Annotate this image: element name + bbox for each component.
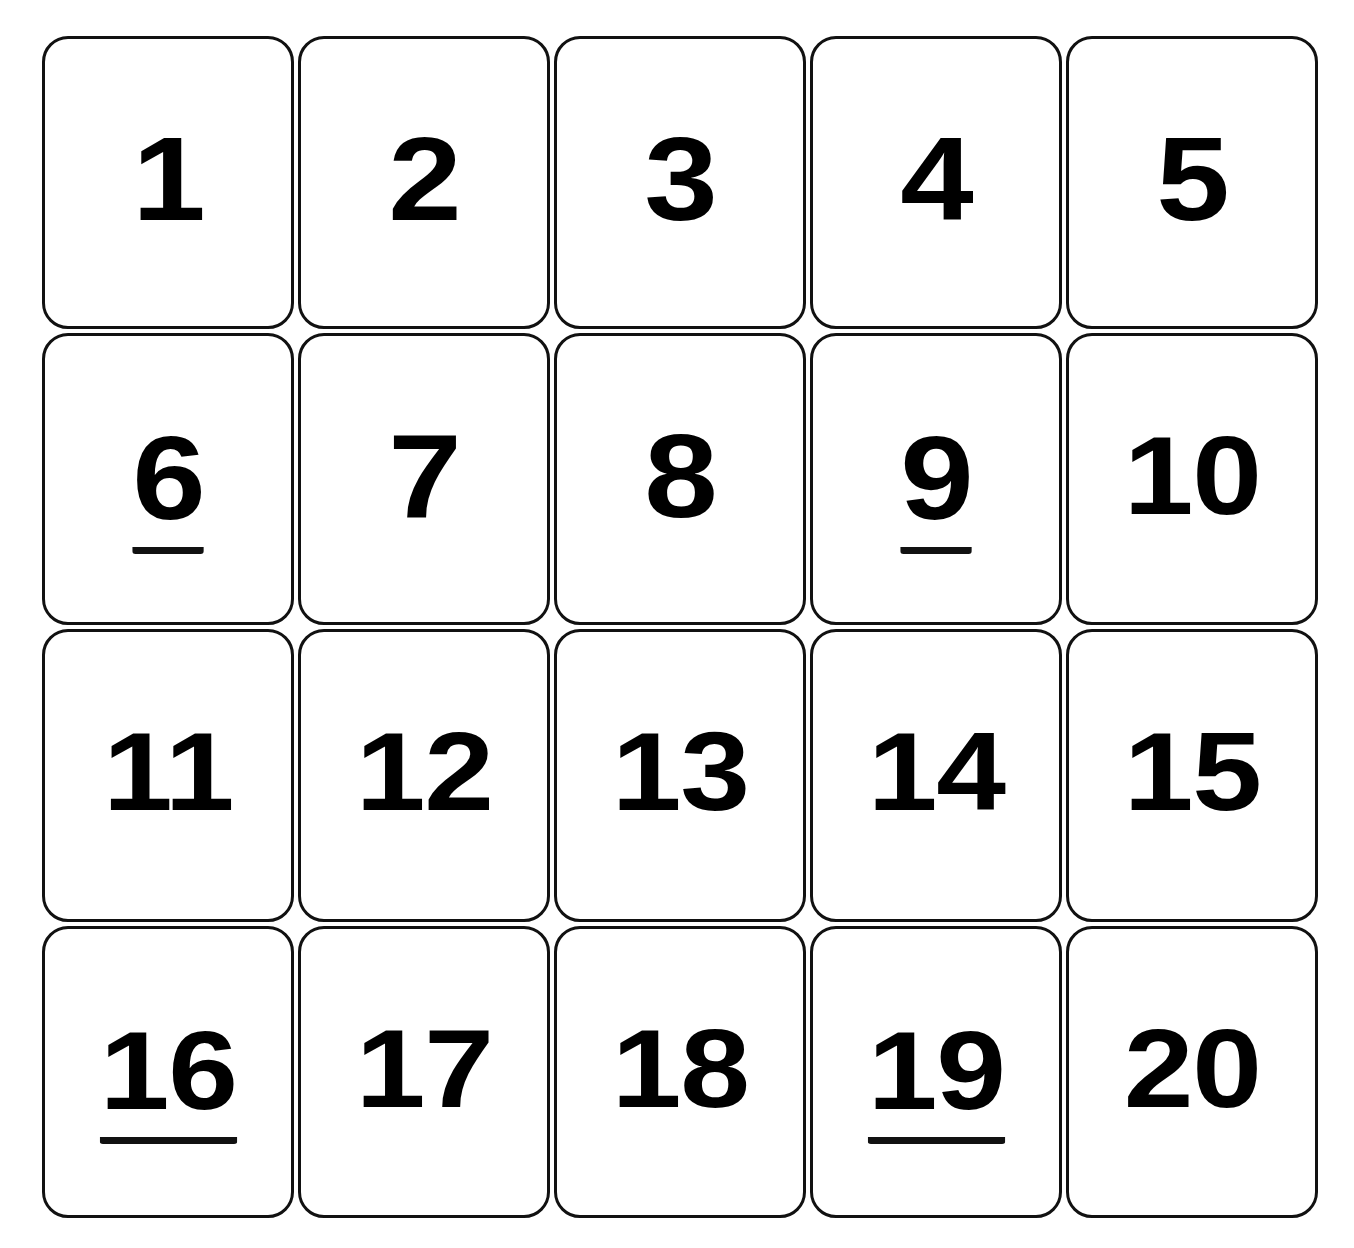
number-card-20[interactable]: 20 — [1066, 926, 1318, 1219]
card-number: 18 — [611, 1013, 748, 1131]
card-number: 8 — [644, 417, 715, 541]
number-card-14[interactable]: 14 — [810, 629, 1062, 922]
number-card-17[interactable]: 17 — [298, 926, 550, 1219]
card-number: 5 — [1156, 120, 1227, 244]
card-number: 3 — [644, 120, 715, 244]
number-card-18[interactable]: 18 — [554, 926, 806, 1219]
card-number: 7 — [388, 417, 459, 541]
card-number: 11 — [103, 716, 233, 834]
number-card-1[interactable]: 1 — [42, 36, 294, 329]
card-number: 12 — [355, 716, 492, 834]
number-card-19[interactable]: 19 — [810, 926, 1062, 1219]
number-card-12[interactable]: 12 — [298, 629, 550, 922]
number-card-16[interactable]: 16 — [42, 926, 294, 1219]
number-card-13[interactable]: 13 — [554, 629, 806, 922]
number-card-grid: 1 2 3 4 5 6 7 8 9 10 11 12 13 14 15 16 1… — [42, 36, 1318, 1218]
card-number-underlined: 19 — [867, 1015, 1004, 1144]
card-number: 13 — [611, 716, 748, 834]
number-card-2[interactable]: 2 — [298, 36, 550, 329]
card-number: 2 — [388, 120, 459, 244]
card-number-underlined: 9 — [900, 419, 971, 554]
card-number: 17 — [355, 1013, 492, 1131]
number-card-7[interactable]: 7 — [298, 333, 550, 626]
card-number: 14 — [867, 716, 1004, 834]
number-card-11[interactable]: 11 — [42, 629, 294, 922]
card-number: 15 — [1123, 716, 1260, 834]
card-number: 1 — [132, 120, 203, 244]
number-card-8[interactable]: 8 — [554, 333, 806, 626]
number-card-9[interactable]: 9 — [810, 333, 1062, 626]
number-card-15[interactable]: 15 — [1066, 629, 1318, 922]
card-number: 4 — [900, 120, 971, 244]
number-card-4[interactable]: 4 — [810, 36, 1062, 329]
card-number-underlined: 6 — [132, 419, 203, 554]
card-number: 20 — [1123, 1013, 1260, 1131]
card-number: 10 — [1123, 420, 1260, 538]
number-card-6[interactable]: 6 — [42, 333, 294, 626]
number-card-3[interactable]: 3 — [554, 36, 806, 329]
card-number-underlined: 16 — [99, 1015, 236, 1144]
number-card-10[interactable]: 10 — [1066, 333, 1318, 626]
number-card-5[interactable]: 5 — [1066, 36, 1318, 329]
